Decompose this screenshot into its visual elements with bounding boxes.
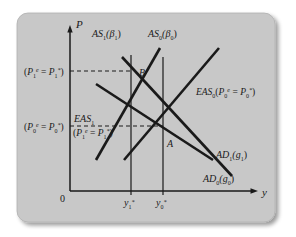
eas1-price-sub: 1 — [82, 134, 85, 140]
p0-sub2: 0 — [55, 128, 58, 134]
eas0-p-sub: 0 — [224, 93, 227, 99]
p0-close: ) — [61, 122, 64, 133]
ad0-arg-close: ) — [231, 173, 234, 185]
p1-close: ) — [61, 67, 64, 78]
eas1-sub: 1 — [91, 120, 94, 126]
eas1-price-sub2: 1 — [104, 134, 107, 140]
p0-sub: 0 — [33, 128, 36, 134]
ad0-arg: (g — [219, 173, 227, 185]
ad0-main: AD — [202, 173, 217, 184]
x-axis-label: y — [261, 186, 267, 198]
ad1-main: AD — [215, 149, 230, 160]
ad1-arg: (g — [232, 149, 240, 161]
eas1-price-eq: = — [88, 128, 98, 138]
as1-arg: (β — [106, 28, 114, 40]
eas0-eq: = — [230, 87, 240, 97]
eas0-arg-close: ) — [252, 87, 255, 98]
as0-arg: (β — [162, 28, 170, 40]
eas1-main: EAS — [73, 113, 91, 124]
y-axis-label: P — [75, 18, 83, 30]
eas0-p-sub2: 0 — [246, 93, 249, 99]
origin-label: 0 — [60, 193, 65, 204]
y1-sup: * — [131, 199, 134, 205]
figure-container: P y 0 AS1(β1) AS0(β0) EAS0(P0e = P0*) AD — [0, 0, 296, 237]
p1-sub: 1 — [33, 73, 36, 79]
p1-sub2: 1 — [55, 73, 58, 79]
as1-arg-close: ) — [117, 28, 120, 40]
eas0-main: EAS — [195, 87, 213, 97]
as0-main: AS — [147, 28, 159, 39]
p1-eq: = — [39, 67, 49, 77]
p0-eq: = — [39, 122, 49, 132]
eas1-price-close: ) — [110, 128, 113, 139]
equilibrium-point-b-label: B — [139, 67, 145, 78]
y0-sup: * — [163, 199, 166, 205]
as0-arg-close: ) — [173, 28, 176, 40]
ad1-arg-close: ) — [244, 149, 247, 161]
equilibrium-point-a-label: A — [166, 138, 174, 149]
eas1-curve-label: EAS1 — [73, 113, 94, 126]
as1-main: AS — [91, 28, 103, 39]
svg-text:EAS1: EAS1 — [73, 113, 94, 126]
